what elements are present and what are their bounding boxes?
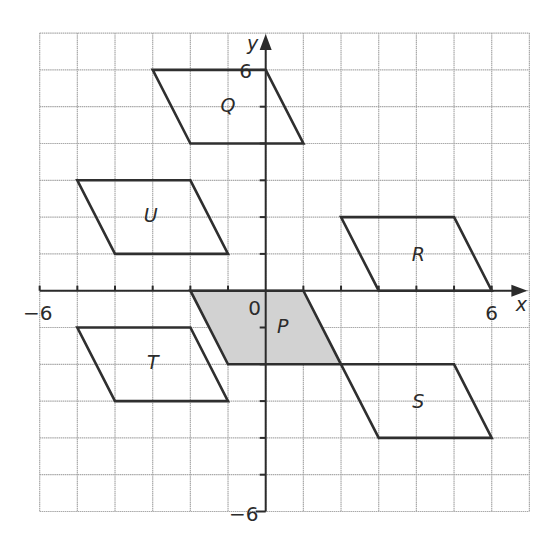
shape-label-p: P [277, 315, 289, 337]
y-tick-label-6: 6 [239, 59, 252, 83]
shape-label-q: Q [221, 94, 236, 116]
y-axis-label: y [246, 32, 259, 54]
shape-label-t: T [147, 351, 160, 373]
x-tick-label-6: 6 [485, 301, 498, 325]
shape-label-u: U [144, 204, 158, 226]
coordinate-grid-diagram: PQRSTU x y 0 −6 6 6 −6 [0, 0, 543, 554]
x-axis-label: x [515, 293, 528, 315]
y-axis-arrow-icon [260, 34, 272, 50]
shape-label-r: R [412, 243, 425, 265]
x-tick-label-neg6: −6 [23, 301, 52, 325]
origin-label: 0 [248, 296, 261, 320]
y-tick-label-neg6: −6 [229, 502, 258, 526]
shape-label-s: S [412, 390, 424, 412]
